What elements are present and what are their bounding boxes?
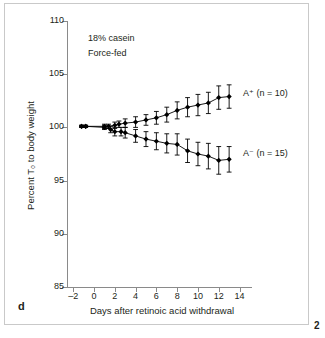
data-point-marker: [143, 137, 148, 142]
figure-page: 859095100105110 –202468101214 Percent T₀…: [0, 0, 325, 338]
data-point-marker: [185, 148, 190, 153]
data-point-marker: [83, 124, 88, 129]
data-point-marker: [164, 112, 169, 117]
data-point-marker: [123, 121, 128, 126]
data-point-marker: [143, 117, 148, 122]
series-label-a-plus: A⁺ (n = 10): [243, 88, 288, 98]
data-point-marker: [206, 100, 211, 105]
data-point-marker: [175, 108, 180, 113]
series-label-a-minus: A⁻ (n = 15): [243, 148, 288, 158]
data-point-marker: [118, 129, 123, 134]
data-point-marker: [154, 139, 159, 144]
data-point-marker: [154, 115, 159, 120]
series-a-plus: [79, 85, 232, 129]
series-svg: [0, 0, 325, 338]
data-point-marker: [216, 95, 221, 100]
data-point-marker: [195, 102, 200, 107]
data-point-marker: [133, 119, 138, 124]
x-axis-title: Days after retinoic acid withdrawal: [67, 305, 257, 316]
data-point-marker: [227, 94, 232, 99]
data-point-marker: [206, 154, 211, 159]
plot-area: 859095100105110 –202468101214 Percent T₀…: [0, 0, 325, 338]
data-point-marker: [133, 133, 138, 138]
data-point-marker: [112, 129, 117, 134]
page-number: 2: [314, 320, 320, 331]
data-point-marker: [164, 141, 169, 146]
y-axis-title: Percent T₀ to body weight: [25, 56, 36, 256]
data-point-marker: [175, 142, 180, 147]
data-point-marker: [185, 105, 190, 110]
series-a-minus: [79, 124, 232, 174]
annotation-diet: 18% casein: [88, 33, 135, 43]
data-point-marker: [123, 130, 128, 135]
data-point-marker: [216, 158, 221, 163]
annotation-feeding: Force-fed: [88, 48, 127, 58]
data-point-marker: [195, 151, 200, 156]
data-point-marker: [227, 157, 232, 162]
panel-letter: d: [18, 300, 25, 312]
